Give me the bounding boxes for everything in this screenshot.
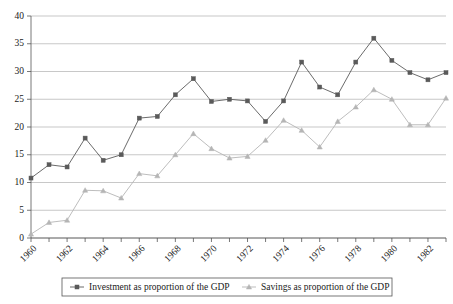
data-point-marker [354,60,358,64]
data-point-marker [282,99,286,103]
x-tick-label: 1962 [54,243,75,264]
legend-label: Savings as proportion of the GDP [261,282,390,292]
data-point-marker [65,165,69,169]
x-tick-label: 1972 [234,243,255,264]
data-point-marker [64,218,69,223]
data-point-marker [246,99,250,103]
line-chart: 0510152025303540196019621964196619681970… [0,0,453,304]
x-tick-label: 1976 [307,243,328,264]
x-tick-label: 1974 [271,243,292,264]
data-point-marker [29,176,33,180]
data-point-marker [318,85,322,89]
data-point-marker [119,153,123,157]
data-point-marker [371,87,376,92]
data-point-marker [443,96,448,101]
y-tick-label: 0 [19,233,24,243]
data-point-marker [137,116,141,120]
y-tick-label: 10 [15,177,25,187]
data-point-marker [47,163,51,167]
series-line [31,90,446,234]
data-point-marker [155,114,159,118]
data-point-marker [75,285,79,289]
data-point-marker [299,128,304,133]
x-tick-label: 1982 [415,243,436,264]
series-investment [29,36,448,180]
data-point-marker [191,131,196,136]
data-point-marker [83,136,87,140]
data-point-marker [372,36,376,40]
legend: Investment as proportion of the GDPSavin… [62,278,392,296]
y-tick-label: 25 [15,94,25,104]
data-point-marker [390,58,394,62]
y-tick-label: 35 [15,38,25,48]
series-savings [28,87,448,236]
x-tick-label: 1980 [379,243,400,264]
x-tick-label: 1960 [18,243,39,264]
x-tick-labels: 1960196219641966196819701972197419761978… [18,243,436,264]
data-point-marker [426,78,430,82]
x-tick-label: 1966 [126,243,147,264]
data-point-marker [444,71,448,75]
y-tick-label: 30 [15,66,25,76]
x-tick-label: 1970 [198,243,219,264]
data-point-marker [408,71,412,75]
chart-container: 0510152025303540196019621964196619681970… [0,0,453,304]
data-point-marker [137,171,142,176]
data-point-marker [209,99,213,103]
data-point-marker [191,77,195,81]
y-tick-label: 5 [19,205,24,215]
x-tick-label: 1964 [90,243,111,264]
data-point-marker [300,60,304,64]
legend-item-savings[interactable]: Savings as proportion of the GDP [242,282,390,292]
data-point-marker [227,97,231,101]
data-point-marker [336,93,340,97]
legend-item-investment[interactable]: Investment as proportion of the GDP [70,282,230,292]
data-point-marker [101,158,105,162]
y-gridlines: 0510152025303540 [15,11,447,243]
y-tick-label: 15 [15,149,25,159]
data-point-marker [28,232,33,237]
x-tick-label: 1978 [343,243,364,264]
data-point-marker [281,118,286,123]
data-point-marker [264,119,268,123]
data-point-marker [173,93,177,97]
x-tickmarks [31,238,446,242]
y-tick-label: 20 [15,122,25,132]
x-tick-label: 1968 [162,243,183,264]
y-tick-label: 40 [15,11,25,21]
legend-label: Investment as proportion of the GDP [89,282,230,292]
